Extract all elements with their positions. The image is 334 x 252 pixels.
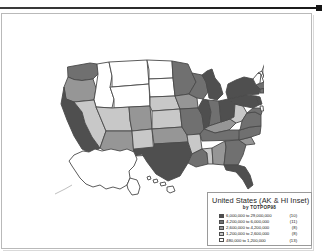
legend-swatch-icon — [219, 226, 224, 230]
legend-range-label: 2,600,000 to 4,200,000 — [226, 225, 284, 230]
state-MT[interactable] — [109, 60, 149, 87]
legend-row[interactable]: 480,000 to 1,200,000 (13) — [219, 237, 307, 242]
legend-range-label: 480,000 to 1,200,000 — [226, 238, 284, 243]
legend-row[interactable]: 4,200,000 to 6,000,000 (11) — [219, 219, 307, 224]
legend-title: United States (AK & HI Inset) — [212, 196, 307, 205]
legend-count-label: (10) — [284, 213, 297, 218]
state-HI-kauai[interactable] — [147, 176, 151, 180]
legend-rows: 6,000,000 to 29,000,000 (10) 4,200,000 t… — [212, 213, 307, 243]
state-WA[interactable] — [68, 63, 99, 81]
map-legend[interactable]: United States (AK & HI Inset) by TOTPOP9… — [207, 192, 312, 246]
state-SD[interactable] — [149, 78, 175, 97]
state-AK[interactable] — [69, 149, 137, 189]
state-OK[interactable] — [152, 127, 188, 144]
legend-row[interactable]: 2,600,000 to 4,200,000 (8) — [219, 225, 307, 230]
legend-count-label: (8) — [284, 225, 297, 230]
legend-row[interactable]: 6,000,000 to 29,000,000 (10) — [219, 213, 307, 218]
legend-swatch-icon — [219, 232, 224, 236]
state-KS[interactable] — [152, 109, 182, 129]
legend-range-label: 6,000,000 to 29,000,000 — [226, 213, 284, 218]
state-DE[interactable] — [260, 106, 264, 111]
state-ND[interactable] — [147, 60, 173, 79]
legend-range-label: 1,200,000 to 2,600,000 — [226, 231, 284, 236]
state-WY[interactable] — [110, 84, 150, 108]
alaska-aleutians — [55, 185, 72, 194]
state-AL[interactable] — [212, 141, 226, 165]
header-rule-end-marker — [316, 5, 322, 11]
legend-count-label: (8) — [284, 231, 297, 236]
page-frame: United States (AK & HI Inset) by TOTPOP9… — [1, 13, 312, 249]
state-HI-bigisland[interactable] — [167, 186, 175, 193]
state-TX[interactable] — [134, 142, 192, 181]
state-GA[interactable] — [224, 140, 246, 165]
header-rule — [0, 7, 318, 9]
legend-swatch-icon — [219, 214, 224, 218]
legend-subtitle: by TOTPOP98 — [212, 205, 307, 211]
state-OR[interactable] — [64, 77, 96, 102]
alaska-panhandle[interactable] — [127, 178, 140, 195]
legend-swatch-icon — [219, 238, 224, 242]
legend-count-label: (11) — [284, 219, 297, 224]
choropleth-map[interactable] — [54, 56, 264, 206]
state-CO[interactable] — [129, 106, 152, 131]
legend-range-label: 4,200,000 to 6,000,000 — [226, 219, 284, 224]
state-FL[interactable] — [224, 165, 253, 189]
state-HI-maui[interactable] — [160, 182, 166, 186]
legend-count-label: (13) — [284, 238, 297, 243]
legend-swatch-icon — [219, 220, 224, 224]
state-HI-oahu[interactable] — [153, 179, 158, 183]
map-canvas — [54, 56, 264, 206]
legend-row[interactable]: 1,200,000 to 2,600,000 (8) — [219, 231, 307, 236]
